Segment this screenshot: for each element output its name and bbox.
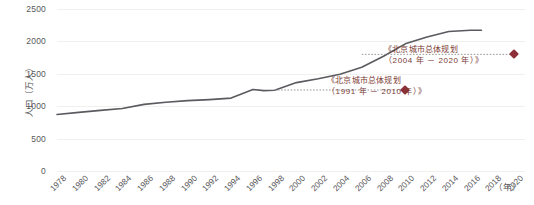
y-axis-title-wrap: 人口（万人） [2,9,16,171]
x-tick-label: 1998 [266,173,286,193]
x-tick-label: 1992 [200,173,220,193]
x-tick-label: 2016 [462,173,482,193]
series-layer [57,9,525,171]
x-tick-label: 1984 [113,173,133,193]
x-tick-label: 1988 [157,173,177,193]
x-tick-label: 1996 [244,173,264,193]
annotation-plan-1991-2010: 《北京城市总体规划 （1991 年 － 2010 年）》 [327,75,426,97]
x-tick-label: 2002 [309,173,329,193]
y-tick-label: 500 [31,134,46,144]
x-tick-label: 2006 [353,173,373,193]
x-tick-label: 2004 [331,173,351,193]
annotation-line-2: （2004 年 － 2020 年）》 [384,55,483,66]
y-tick-label: 2500 [26,4,46,14]
x-tick-label: 2008 [374,173,394,193]
y-tick-label: 0 [41,166,46,176]
annotation-line-1: 《北京城市总体规划 [327,75,426,86]
x-tick-label: 1986 [135,173,155,193]
x-tick-label: 1990 [179,173,199,193]
y-axis-title: 人口（万人） [22,63,34,117]
y-tick-label: 2000 [26,36,46,46]
x-tick-label: 1978 [48,173,68,193]
annotation-plan-2004-2020: 《北京城市总体规划 （2004 年 － 2020 年）》 [384,44,483,66]
annotation-line-1: 《北京城市总体规划 [384,44,483,55]
x-tick-label: 2014 [440,173,460,193]
x-tick-label: 1982 [91,173,111,193]
population-line-chart: 2500 2000 1500 1000 500 0 人口（万人） 1978198… [0,0,534,205]
plot-area [57,9,525,171]
x-tick-label: 1994 [222,173,242,193]
annotation-line-2: （1991 年 － 2010 年）》 [327,86,426,97]
population-line [57,30,481,114]
x-tick-label: 1980 [70,173,90,193]
x-axis-unit: （年） [494,180,521,192]
x-axis-labels: 1978198019821984198619881990199219941996… [57,173,525,205]
gridline [57,171,525,172]
x-tick-label: 2010 [396,173,416,193]
x-tick-label: 2000 [287,173,307,193]
x-tick-label: 2012 [418,173,438,193]
